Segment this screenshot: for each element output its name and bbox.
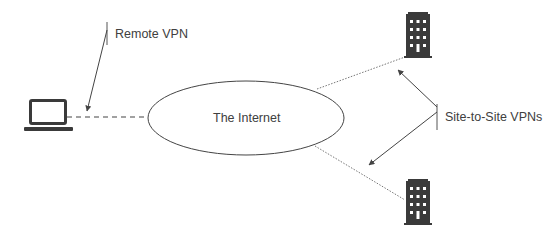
site-to-site-label: Site-to-Site VPNs: [445, 110, 542, 124]
site-vpn-arrow-top: [398, 70, 437, 107]
site-vpn-arrow-bottom: [369, 112, 437, 165]
building-icon-bottom: [404, 179, 432, 225]
remote-vpn-label: Remote VPN: [115, 27, 188, 41]
site-connection-bottom: [315, 146, 405, 200]
remote-vpn-arrow: [87, 30, 107, 111]
building-icon-top: [404, 12, 432, 58]
site-connection-top: [317, 57, 405, 89]
laptop-icon: [24, 101, 73, 132]
internet-label: The Internet: [213, 111, 280, 125]
